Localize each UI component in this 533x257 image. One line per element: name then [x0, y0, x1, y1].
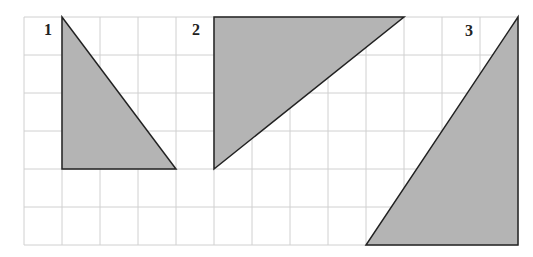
triangle-label-2: 2 — [192, 21, 200, 38]
triangle-label-3: 3 — [465, 22, 473, 39]
triangle-label-1: 1 — [44, 21, 52, 38]
triangle-grid-diagram: 123 — [0, 0, 533, 257]
